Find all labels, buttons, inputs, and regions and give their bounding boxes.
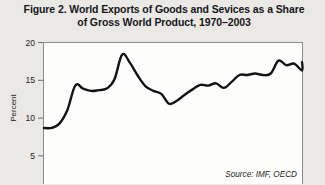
figure-title: Figure 2. World Exports of Goods and Sev…	[14, 3, 314, 28]
y-tick-label-20: 20	[26, 38, 36, 48]
line-chart: 20 15 10 5 Percent Source: IMF, OECD	[0, 26, 325, 184]
figure-title-line-1: Figure 2. World Exports of Goods and Sev…	[14, 3, 314, 16]
y-tick-label-15: 15	[26, 75, 36, 85]
y-tick-label-10: 10	[26, 113, 36, 123]
y-tick-label-5: 5	[30, 151, 35, 161]
y-axis-title: Percent	[9, 93, 18, 121]
plot-frame	[44, 43, 303, 185]
chart-area: 20 15 10 5 Percent Source: IMF, OECD	[0, 26, 325, 184]
source-note: Source: IMF, OECD	[225, 170, 297, 179]
figure-container: Figure 2. World Exports of Goods and Sev…	[0, 0, 325, 184]
